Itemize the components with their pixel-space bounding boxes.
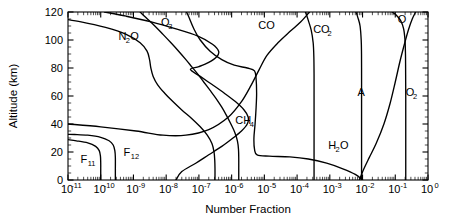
svg-text:A: A <box>357 86 365 98</box>
y-tick-label: 100 <box>45 34 63 46</box>
y-axis-title: Altitude (km) <box>7 64 19 129</box>
x-tick-label: 10-6 <box>225 181 244 195</box>
svg-text:-3: -3 <box>335 181 342 190</box>
y-tick-labels: 020406080100120 <box>45 6 63 186</box>
curve-label-o: O <box>398 13 407 25</box>
svg-text:4: 4 <box>250 120 254 129</box>
curve-label-a: A <box>357 86 365 98</box>
svg-text:-9: -9 <box>139 181 146 190</box>
svg-text:2: 2 <box>328 29 332 38</box>
x-tick-label: 10-8 <box>159 181 178 195</box>
chart-canvas: O2AOCO2COH2OCH4O3N2OF11F12 10-1110-1010-… <box>0 0 455 219</box>
x-tick-label: 10-5 <box>257 181 276 195</box>
svg-text:2: 2 <box>413 92 417 101</box>
x-axis-title: Number Fraction <box>205 203 291 215</box>
svg-text:F: F <box>80 153 87 165</box>
svg-text:10: 10 <box>159 183 171 195</box>
svg-text:10: 10 <box>192 183 204 195</box>
svg-text:F: F <box>124 146 131 158</box>
svg-text:O: O <box>340 139 349 151</box>
curve-o2 <box>392 12 406 180</box>
x-tick-label: 100 <box>421 181 439 195</box>
y-tick-label: 40 <box>51 118 63 130</box>
curve-label-f11: F11 <box>80 153 95 168</box>
svg-text:10: 10 <box>323 183 335 195</box>
curve-label-f12: F12 <box>124 146 140 161</box>
x-tick-label: 10-7 <box>192 181 211 195</box>
svg-text:O: O <box>398 13 407 25</box>
curve-label-co2: CO2 <box>313 23 332 38</box>
x-tick-labels: 10-1110-1010-910-810-710-610-510-410-310… <box>61 181 439 195</box>
y-tick-label: 120 <box>45 6 63 18</box>
svg-text:10: 10 <box>126 183 138 195</box>
svg-text:0: 0 <box>434 181 438 190</box>
x-tick-label: 10-2 <box>355 181 374 195</box>
curve-co2 <box>305 12 314 180</box>
svg-text:-7: -7 <box>204 181 211 190</box>
svg-text:10: 10 <box>257 183 269 195</box>
x-tick-label: 10-9 <box>126 181 145 195</box>
y-tick-label: 0 <box>57 174 63 186</box>
svg-text:-2: -2 <box>368 181 375 190</box>
curve-label-o3: O3 <box>161 16 172 31</box>
x-tick-label: 10-11 <box>61 181 82 195</box>
y-tick-label: 60 <box>51 90 63 102</box>
svg-text:10: 10 <box>225 183 237 195</box>
svg-text:-10: -10 <box>104 181 115 190</box>
svg-text:11: 11 <box>88 159 96 168</box>
curve-label-o2: O2 <box>406 86 417 101</box>
svg-text:-4: -4 <box>302 181 309 190</box>
svg-text:10: 10 <box>421 183 433 195</box>
svg-text:10: 10 <box>388 183 400 195</box>
svg-text:3: 3 <box>168 22 172 31</box>
x-tick-label: 10-10 <box>94 181 115 195</box>
svg-text:-11: -11 <box>71 181 81 190</box>
x-tick-label: 10-1 <box>388 181 407 195</box>
y-tick-label: 80 <box>51 62 63 74</box>
svg-text:-1: -1 <box>400 181 407 190</box>
svg-text:-5: -5 <box>270 181 277 190</box>
svg-text:-8: -8 <box>171 181 178 190</box>
svg-text:CO: CO <box>258 19 275 31</box>
svg-text:-6: -6 <box>237 181 244 190</box>
x-tick-label: 10-3 <box>323 181 342 195</box>
curve-h2o <box>187 12 363 180</box>
curve-label-n2o: N2O <box>119 30 140 45</box>
curve-ch4 <box>140 12 239 180</box>
x-tick-label: 10-4 <box>290 181 309 195</box>
svg-text:10: 10 <box>355 183 367 195</box>
svg-text:O: O <box>130 30 139 42</box>
y-tick-label: 20 <box>51 146 63 158</box>
curve-label-co: CO <box>258 19 275 31</box>
svg-text:10: 10 <box>290 183 302 195</box>
svg-text:12: 12 <box>131 152 139 161</box>
curve-label-h2o: H2O <box>328 139 349 154</box>
atmospheric-composition-figure: O2AOCO2COH2OCH4O3N2OF11F12 10-1110-1010-… <box>0 0 455 219</box>
